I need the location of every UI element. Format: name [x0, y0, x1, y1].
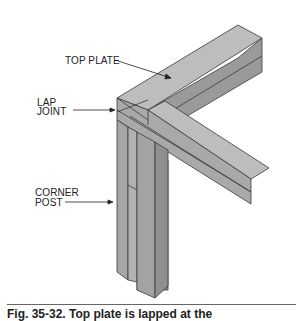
label-corner-post-2: POST: [35, 197, 63, 208]
figure-caption: Fig. 35-32. Top plate is lapped at the: [7, 307, 212, 321]
caption-divider: [7, 304, 296, 305]
corner-post-left: [117, 120, 128, 280]
label-lap-joint-2: JOINT: [37, 106, 66, 117]
label-top-plate: TOP PLATE: [65, 55, 120, 66]
corner-post-middle: [128, 127, 137, 282]
corner-post-right: [137, 132, 155, 298]
